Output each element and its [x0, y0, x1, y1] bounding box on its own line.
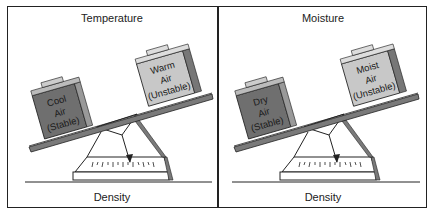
- density-label: Density: [7, 191, 217, 203]
- panel-title: Temperature: [7, 12, 217, 24]
- moisture-panel: Dry Air (Stable) Moist Air (Unstable) Mo…: [218, 6, 428, 208]
- dry-air-weight: Dry Air (Stable): [233, 72, 296, 139]
- panel-title: Moisture: [218, 12, 428, 24]
- seesaw-scale-illustration: Cool Air (Stable) Warm Air (Unstable): [7, 6, 217, 208]
- density-label: Density: [218, 191, 428, 203]
- warm-air-weight: Warm Air (Unstable): [134, 39, 202, 106]
- temperature-panel: Cool Air (Stable) Warm Air (Unstable) Te…: [7, 6, 217, 208]
- cool-air-weight: Cool Air (Stable): [29, 72, 92, 139]
- moist-air-weight: Moist Air (Unstable): [339, 39, 407, 106]
- seesaw-scale-illustration: Dry Air (Stable) Moist Air (Unstable): [218, 6, 428, 208]
